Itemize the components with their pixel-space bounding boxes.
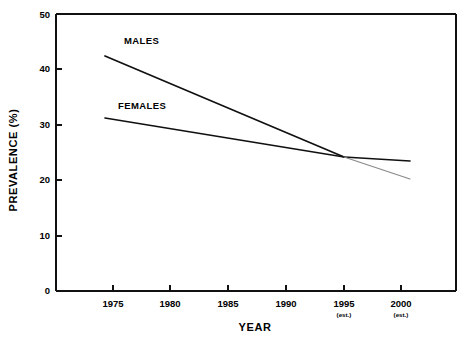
x-tick-sublabel-2000: (est.) <box>394 311 409 318</box>
x-tick-label-1995: 1995 <box>333 298 355 309</box>
chart-canvas: 0 10 20 30 40 50 1975 1980 1985 1990 199… <box>0 0 472 339</box>
females-line-observed <box>105 118 344 157</box>
y-tick-label-40: 40 <box>39 63 50 74</box>
series-females <box>105 118 410 179</box>
y-axis-tick-labels: 0 10 20 30 40 50 <box>39 9 50 296</box>
y-tick-label-50: 50 <box>39 9 50 20</box>
series-label-males: MALES <box>124 35 159 46</box>
x-tick-label-1985: 1985 <box>217 298 239 309</box>
plot-frame <box>56 14 456 291</box>
x-tick-label-2000: 2000 <box>390 298 411 309</box>
prevalence-by-year-chart: 0 10 20 30 40 50 1975 1980 1985 1990 199… <box>0 0 472 339</box>
x-tick-label-1980: 1980 <box>159 298 180 309</box>
x-tick-sublabel-1995: (est.) <box>337 311 352 318</box>
y-tick-label-20: 20 <box>39 174 50 185</box>
x-tick-label-1975: 1975 <box>102 298 124 309</box>
series-label-females: FEMALES <box>118 100 166 111</box>
y-axis-ticks <box>56 14 62 291</box>
x-tick-label-1990: 1990 <box>275 298 296 309</box>
x-axis-title: YEAR <box>239 321 272 333</box>
x-axis-ticks <box>113 285 401 291</box>
y-tick-label-10: 10 <box>39 230 50 241</box>
y-tick-label-30: 30 <box>39 119 50 130</box>
y-axis-title: PREVALENCE (%) <box>7 109 19 212</box>
y-tick-label-0: 0 <box>45 285 50 296</box>
x-axis-tick-labels: 1975 1980 1985 1990 1995 (est.) 2000 (es… <box>102 298 411 318</box>
